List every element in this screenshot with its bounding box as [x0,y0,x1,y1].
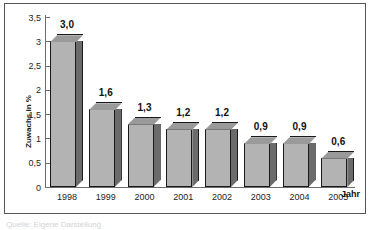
bar[interactable] [205,129,231,187]
bar-value-label: 0,6 [318,137,358,147]
x-axis-tick-label: 2004 [280,193,320,202]
bar-front-face [128,124,154,187]
y-axis-tick-label: 2,5 [28,62,41,71]
bar-top-edge [328,151,354,152]
bar[interactable] [128,124,154,187]
bar[interactable] [166,129,192,187]
bar-front-face [283,143,309,187]
y-axis-tick-label: 3 [36,37,41,46]
bar[interactable] [50,41,76,187]
bar-value-label: 3,0 [47,20,87,30]
x-axis-tick-label: 2000 [125,193,165,202]
figure-caption: Quelle: Eigene Darstellung [6,221,356,230]
bar-side-face [76,41,83,187]
bar-top-edge [290,136,316,137]
x-axis-tick-label: 2001 [163,193,203,202]
bars-layer: 3,01,61,31,21,20,90,90,6 [45,15,355,188]
bar[interactable] [89,109,115,187]
bar-side-face [270,143,277,187]
y-axis-tick-label: 0 [36,183,41,192]
bar-top-edge [96,102,122,103]
bar-side-face [154,124,161,187]
bar-value-label: 0,9 [280,122,320,132]
bar[interactable] [244,143,270,187]
y-axis-tick-label: 2 [36,86,41,95]
bar-top-edge [212,122,238,123]
bar-front-face [166,129,192,187]
y-axis-tick-label: 1 [36,134,41,143]
bar-side-face [309,143,316,187]
figure-frame: Zuwachs in % 00,511,522,533,5 3,01,61,31… [4,3,366,214]
bar-front-face [321,158,347,187]
bar-top-edge [251,136,277,137]
x-axis-tick-label: 1998 [47,193,87,202]
bar[interactable] [283,143,309,187]
bar-side-face [115,109,122,187]
bar-value-label: 1,2 [163,108,203,118]
bar-top-edge [135,117,161,118]
bar-front-face [89,109,115,187]
y-axis-title-label: Zuwachs in % [25,95,33,148]
bar-front-face [205,129,231,187]
bar-side-face [192,129,199,187]
x-axis-tick-label: 2002 [202,193,242,202]
bar-value-label: 1,6 [86,88,126,98]
y-axis-tick-label: 1,5 [28,110,41,119]
bar[interactable] [321,158,347,187]
plot-area: 00,511,522,533,5 3,01,61,31,21,20,90,90,… [45,15,355,188]
y-axis-title: Zuwachs in % [14,56,28,148]
bar-side-face [347,158,354,187]
bar-top-edge [173,122,199,123]
bar-side-face [231,129,238,187]
x-axis-tick-label: 2003 [241,193,281,202]
bar-value-label: 0,9 [241,122,281,132]
bar-front-face [244,143,270,187]
chart-screenshot: Zuwachs in % 00,511,522,533,5 3,01,61,31… [0,0,372,230]
bar-value-label: 1,2 [202,108,242,118]
bar-front-face [50,41,76,187]
x-axis-title: Jahr [341,190,360,199]
y-axis-tick-label: 3,5 [28,13,41,22]
bar-top-edge [57,34,83,35]
bar-value-label: 1,3 [125,103,165,113]
y-axis-tick-label: 0,5 [28,159,41,168]
x-axis-tick-label: 1999 [86,193,126,202]
